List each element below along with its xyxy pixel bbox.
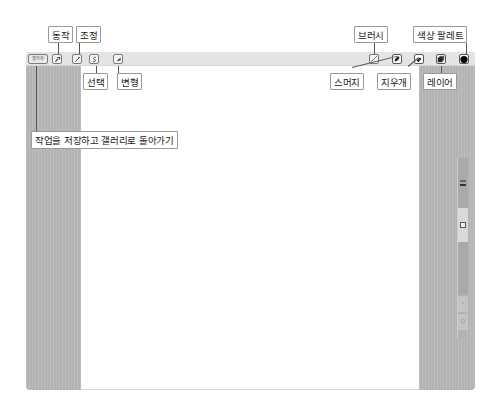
callout-gallery: 작업을 저장하고 갤러리로 돌아가기 (31, 131, 178, 149)
redo-button[interactable] (458, 314, 468, 330)
callout-line-adjustments (79, 43, 80, 54)
callout-line-color-palette (466, 43, 467, 54)
layers-button[interactable] (436, 54, 446, 64)
brush-size-slider[interactable] (458, 158, 468, 208)
square-modify-icon (460, 222, 466, 228)
cursor-arrow-icon (115, 56, 122, 63)
top-toolbar: 갤러리 (26, 52, 475, 66)
callout-adjustments: 조정 (76, 26, 101, 43)
callout-line-actions (58, 43, 59, 54)
wrench-icon (54, 56, 61, 63)
brush-size-handle-center[interactable] (460, 184, 466, 186)
callout-eraser: 지우개 (377, 73, 411, 90)
procreate-app-window: 갤러리 (26, 52, 475, 390)
magic-wand-icon (74, 56, 81, 63)
brush-size-handle[interactable] (460, 180, 466, 182)
actions-button[interactable] (52, 54, 62, 64)
sidebar (457, 158, 467, 338)
opacity-slider[interactable] (458, 242, 468, 294)
callout-selection: 선택 (83, 73, 108, 90)
callout-layers: 레이어 (423, 73, 457, 90)
color-palette-button[interactable] (459, 54, 469, 64)
callout-brush: 브러시 (354, 26, 388, 43)
undo-icon (460, 300, 466, 306)
modify-button[interactable] (458, 208, 468, 242)
callout-transform: 변형 (117, 73, 142, 90)
left-gray-margin (26, 52, 81, 390)
callout-actions: 동작 (48, 26, 73, 43)
selection-button[interactable] (89, 54, 99, 64)
redo-icon (460, 318, 466, 324)
adjustments-button[interactable] (72, 54, 82, 64)
transform-button[interactable] (113, 54, 123, 64)
color-circle-icon (460, 55, 468, 64)
gallery-button[interactable]: 갤러리 (28, 54, 48, 64)
callout-color-palette: 색상 팔레트 (413, 26, 467, 43)
callout-smudge: 스머지 (330, 73, 364, 90)
layers-icon (437, 55, 445, 63)
callout-line-brush (374, 43, 375, 54)
drawing-canvas[interactable] (81, 52, 419, 390)
undo-button[interactable] (458, 296, 468, 312)
gallery-label: 갤러리 (32, 57, 43, 61)
callout-line-gallery (36, 66, 37, 140)
selection-s-icon (91, 56, 98, 63)
